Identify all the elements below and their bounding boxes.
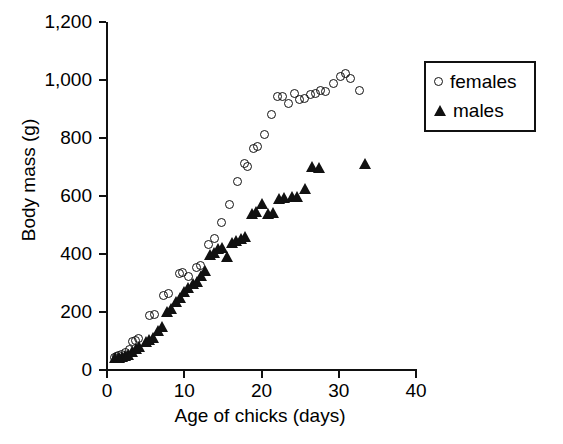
legend-label-females: females <box>450 72 517 91</box>
plot-area <box>107 22 416 370</box>
y-tick-label: 1,200 <box>18 12 92 31</box>
x-tick-label: 30 <box>319 381 359 400</box>
data-point-female <box>355 86 364 95</box>
data-point-female <box>253 142 262 151</box>
y-tick-mark <box>99 195 106 197</box>
data-point-male <box>359 158 371 169</box>
open-circle-icon <box>434 77 443 86</box>
data-point-male <box>313 162 325 173</box>
filled-triangle-icon <box>434 105 446 116</box>
x-tick-mark <box>261 371 263 378</box>
data-point-female <box>150 310 159 319</box>
y-tick-label: 0 <box>18 360 92 379</box>
data-point-male <box>239 231 251 242</box>
y-tick-mark <box>99 137 106 139</box>
x-tick-mark <box>183 371 185 378</box>
data-point-male <box>199 265 211 276</box>
y-tick-mark <box>99 253 106 255</box>
y-tick-label: 200 <box>18 302 92 321</box>
data-point-female <box>284 99 293 108</box>
x-tick-mark <box>415 371 417 378</box>
y-tick-label: 800 <box>18 128 92 147</box>
data-point-female <box>267 110 276 119</box>
data-point-male <box>156 321 168 332</box>
data-point-female <box>329 79 338 88</box>
data-point-female <box>217 218 226 227</box>
data-point-female <box>321 87 330 96</box>
data-point-male <box>299 183 311 194</box>
data-point-male <box>267 207 279 218</box>
x-tick-label: 20 <box>242 381 282 400</box>
y-tick-label: 400 <box>18 244 92 263</box>
data-point-female <box>260 130 269 139</box>
legend: females males <box>424 61 536 132</box>
x-tick-label: 10 <box>164 381 204 400</box>
y-tick-mark <box>99 369 106 371</box>
legend-item-males: males <box>434 96 504 124</box>
x-tick-label: 40 <box>396 381 436 400</box>
y-tick-label: 600 <box>18 186 92 205</box>
data-point-male <box>221 251 233 262</box>
legend-label-males: males <box>453 101 504 120</box>
y-tick-mark <box>99 21 106 23</box>
data-point-female <box>346 74 355 83</box>
y-tick-label: 1,000 <box>18 70 92 89</box>
legend-item-females: females <box>434 67 517 95</box>
data-point-female <box>233 177 242 186</box>
x-tick-label: 0 <box>87 381 127 400</box>
y-tick-mark <box>99 311 106 313</box>
x-axis-title: Age of chicks (days) <box>104 405 416 427</box>
scatter-plot-figure: Body mass (g) 02004006008001,0001,200 01… <box>0 0 563 444</box>
y-tick-mark <box>99 79 106 81</box>
data-point-female <box>225 200 234 209</box>
x-tick-mark <box>338 371 340 378</box>
x-tick-mark <box>106 371 108 378</box>
data-point-female <box>243 162 252 171</box>
